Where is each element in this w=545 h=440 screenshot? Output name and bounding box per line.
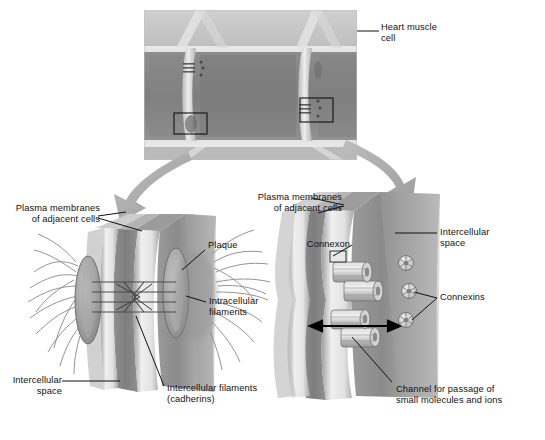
channel-label: Channel for passage of small molecules a… (396, 384, 502, 407)
desmosome-plaque-left (75, 256, 101, 344)
left-plasma-membranes-label: Plasma membranes of adjacent cells (0, 203, 100, 226)
intercellular-space-label-left: Intercellular space (0, 375, 62, 398)
connexins-label: Connexins (440, 292, 485, 303)
connexon-upper (333, 262, 383, 301)
right-plasma-membranes-label: Plasma membranes of adjacent cells (102, 192, 342, 215)
cadherins-leader (136, 316, 164, 386)
connexins-leader-a (414, 292, 437, 298)
right-zoom-arrow (342, 140, 416, 206)
intercellular-space-label-right: Intercellular space (440, 227, 489, 250)
figure-canvas: Heart muscle cell Plasma membranes of ad… (0, 0, 545, 440)
intracellular-filaments-left (28, 234, 80, 374)
gap-junction-callout-box (300, 98, 333, 122)
connexon-marker-box (330, 251, 346, 262)
left-panel-leaders (62, 212, 206, 386)
intracellular-filaments-leader (186, 296, 206, 302)
gap-junction-illustration (274, 192, 441, 400)
connexon-lower (331, 310, 380, 348)
channel-leader (352, 337, 392, 382)
intracellular-filaments-label: Intracellular filaments (209, 296, 258, 319)
cadherins-label: Intercellular filaments (cadherins) (167, 383, 257, 406)
right-panel-leaders (312, 198, 437, 382)
plaque-leader (182, 250, 205, 270)
connexin-rosettes (399, 256, 417, 328)
cadherin-filaments (92, 282, 176, 312)
connexins-leader-b (412, 298, 437, 320)
heart-muscle-micrograph-image (144, 10, 357, 160)
desmosome-callout-box (174, 113, 207, 134)
plasma-membranes-leader-b (98, 218, 142, 231)
molecule-passage-arrow (310, 321, 400, 331)
connexon-label: Connexon (230, 239, 350, 250)
desmosome-plaque-right (163, 248, 189, 338)
heart-muscle-cell-label: Heart muscle cell (381, 22, 437, 45)
